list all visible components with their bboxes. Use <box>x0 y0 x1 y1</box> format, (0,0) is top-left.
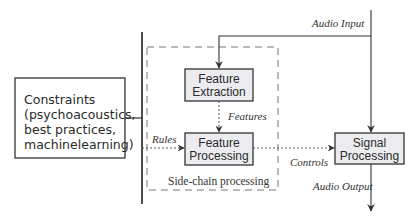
controls-label: Controls <box>290 156 328 168</box>
audio-input-label: Audio Input <box>311 17 365 29</box>
feature-processing-line-2: Processing <box>189 149 248 163</box>
features-label: Features <box>227 110 267 122</box>
constraints-line-1: Constraints <box>24 92 95 107</box>
feature-extraction-line-2: Extraction <box>192 85 245 99</box>
signal-processing-line-2: Processing <box>340 149 399 163</box>
feature-processing-box: Feature Processing <box>185 133 253 165</box>
feature-extraction-box: Feature Extraction <box>185 69 253 101</box>
audio-input-branch <box>219 36 371 68</box>
signal-processing-box: Signal Processing <box>335 133 404 164</box>
constraints-line-3: best practices, <box>24 122 116 137</box>
svg-text:(psychoacoustics,: (psychoacoustics, <box>24 107 136 122</box>
svg-text:best practices,: best practices, <box>24 122 116 137</box>
constraints-box: Constraints (psychoacoustics, best pract… <box>15 78 136 158</box>
constraints-line-2: (psychoacoustics, <box>24 107 136 122</box>
rules-label: Rules <box>151 133 176 145</box>
constraints-line-4: machinelearning) <box>24 137 134 152</box>
feature-extraction-line-1: Feature <box>198 72 240 86</box>
svg-text:machinelearning): machinelearning) <box>24 137 134 152</box>
feature-processing-line-1: Feature <box>198 136 240 150</box>
audio-output-label: Audio Output <box>312 180 374 192</box>
signal-processing-line-1: Signal <box>353 136 386 150</box>
signal-flow-diagram: Constraints (psychoacoustics, best pract… <box>0 0 418 221</box>
side-chain-caption: Side-chain processing <box>168 175 269 188</box>
svg-text:Constraints: Constraints <box>24 92 95 107</box>
